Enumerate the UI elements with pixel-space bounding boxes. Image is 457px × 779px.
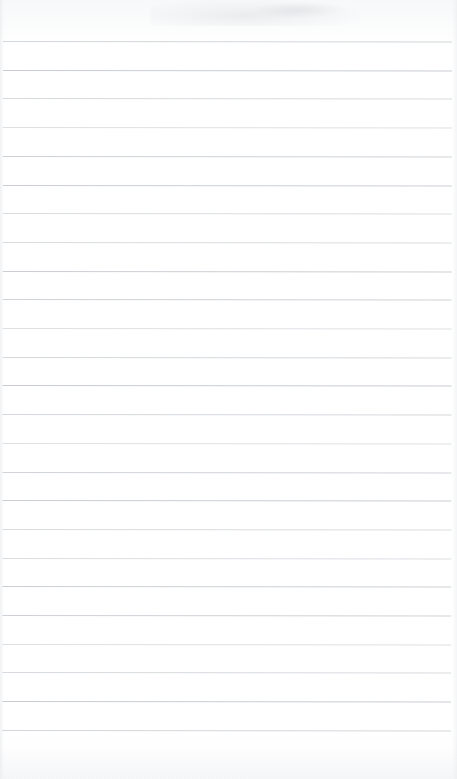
- rule-line: [2, 644, 451, 646]
- rule-line: [3, 156, 452, 158]
- rule-line: [3, 242, 452, 244]
- rule-line: [2, 529, 451, 531]
- rule-line: [3, 299, 452, 301]
- rule-line: [3, 385, 452, 387]
- rule-line: [3, 328, 452, 330]
- rule-line: [3, 185, 452, 187]
- rule-line: [2, 558, 451, 560]
- rule-line: [2, 672, 451, 674]
- rule-line: [2, 472, 451, 474]
- rule-line: [3, 357, 452, 359]
- rule-line: [2, 500, 451, 502]
- rule-line: [2, 414, 451, 416]
- ruled-lines-layer: [0, 0, 457, 779]
- rule-line: [3, 41, 452, 43]
- rule-line: [3, 98, 452, 100]
- rule-line: [2, 615, 451, 617]
- rule-line: [2, 730, 451, 732]
- rule-line: [2, 586, 451, 588]
- rule-line: [2, 701, 451, 703]
- ruled-lines-skew-group: [0, 0, 457, 779]
- rule-line: [3, 271, 452, 273]
- rule-line: [2, 443, 451, 445]
- rule-line: [3, 70, 452, 72]
- rule-line: [3, 127, 452, 129]
- rule-line: [3, 213, 452, 215]
- scanned-page: [0, 0, 457, 779]
